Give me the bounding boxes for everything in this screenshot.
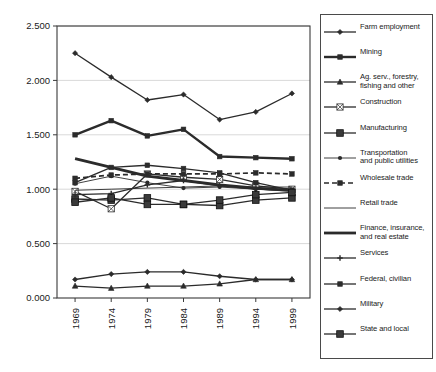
data-point-marker <box>73 180 78 185</box>
y-axis-tick-label: 2.500 <box>26 20 50 31</box>
x-axis-tick-label: 1974 <box>106 308 117 329</box>
legend-marker-icon <box>323 250 357 262</box>
data-point-marker <box>337 331 344 338</box>
data-point-marker <box>108 206 114 212</box>
legend-marker-icon <box>323 276 357 288</box>
x-axis-tick-label: 1999 <box>287 308 298 329</box>
legend-label: Construction <box>357 98 401 107</box>
data-point-marker <box>338 55 343 60</box>
y-axis-tick-label: 2.000 <box>26 75 50 86</box>
legend-item[interactable]: Federal, civilian <box>323 275 432 288</box>
data-point-marker <box>253 109 258 114</box>
legend-label: Wholesale trade <box>357 174 413 183</box>
data-point-marker <box>338 181 343 186</box>
y-axis-tick-label: 1.000 <box>26 184 50 195</box>
data-point-marker <box>72 277 77 282</box>
data-point-marker <box>181 269 186 274</box>
data-point-marker <box>181 166 186 171</box>
y-axis-tick-label: 0.000 <box>26 292 50 303</box>
legend-item[interactable]: Wholesale trade <box>323 174 432 187</box>
data-point-marker <box>338 281 343 286</box>
legend-marker-icon <box>323 301 357 313</box>
legend-item[interactable]: Farm employment <box>323 23 432 36</box>
data-point-marker <box>109 118 114 123</box>
legend-label: Military <box>357 300 383 309</box>
legend-marker-icon <box>323 125 357 137</box>
legend-label: Retail trade <box>357 199 398 208</box>
legend-marker-icon <box>323 49 357 61</box>
series-2 <box>73 118 294 161</box>
data-point-marker <box>181 127 186 132</box>
data-point-marker <box>337 306 342 311</box>
data-point-marker <box>109 173 114 178</box>
data-point-marker <box>109 271 114 276</box>
x-axis-tick-label: 1969 <box>70 308 81 329</box>
legend-label: Transportationand public utilities <box>357 149 418 166</box>
data-point-marker <box>144 195 151 202</box>
data-point-marker <box>216 197 223 204</box>
legend-item[interactable]: Military <box>323 300 432 313</box>
data-point-marker <box>180 201 187 208</box>
x-axis-tick-label: 1984 <box>178 308 189 329</box>
legend-marker-icon <box>323 326 357 338</box>
data-point-marker <box>289 91 294 96</box>
data-point-marker <box>337 104 343 110</box>
legend-item[interactable]: State and local <box>323 325 432 338</box>
x-axis-tick-label: 1979 <box>142 308 153 329</box>
data-point-marker <box>145 134 150 139</box>
data-point-marker <box>108 195 115 202</box>
series-13 <box>72 189 295 208</box>
data-point-marker <box>337 29 342 34</box>
legend-item[interactable]: Retail trade <box>323 199 432 212</box>
data-point-marker <box>338 156 342 160</box>
data-point-marker <box>72 199 79 206</box>
plot-svg: 0.0000.5001.0001.5002.0002.5001969197419… <box>0 0 316 372</box>
series-line <box>75 53 292 119</box>
data-point-marker <box>181 172 186 177</box>
legend-label: Farm employment <box>357 23 420 32</box>
y-axis-tick-label: 0.500 <box>26 238 50 249</box>
legend-item[interactable]: Construction <box>323 98 432 111</box>
y-axis-tick-label: 1.500 <box>26 129 50 140</box>
series-line <box>75 121 292 159</box>
legend-item[interactable]: Services <box>323 249 432 262</box>
data-point-marker <box>217 154 222 159</box>
data-point-marker <box>217 274 222 279</box>
data-point-marker <box>145 269 150 274</box>
chart-legend: Farm employmentMiningAg. serv., forestry… <box>320 14 433 359</box>
legend-label: Ag. serv., forestry,fishing and other <box>357 73 418 90</box>
data-point-marker <box>337 256 343 262</box>
legend-marker-icon <box>323 150 357 162</box>
data-point-marker <box>73 176 78 181</box>
series-12 <box>72 269 294 282</box>
data-point-marker <box>289 189 296 196</box>
legend-label: Finance, insurance,and real estate <box>357 224 424 241</box>
legend-marker-icon <box>323 74 357 86</box>
legend-marker-icon <box>323 200 357 212</box>
legend-label: Federal, civilian <box>357 275 411 284</box>
data-point-marker <box>253 171 258 176</box>
legend-label: Services <box>357 249 388 258</box>
data-point-marker <box>217 176 223 182</box>
data-point-marker <box>109 165 114 170</box>
legend-item[interactable]: Finance, insurance,and real estate <box>323 224 432 241</box>
line-chart: 0.0000.5001.0001.5002.0002.5001969197419… <box>0 0 316 372</box>
legend-item[interactable]: Manufacturing <box>323 124 432 137</box>
legend-label: Mining <box>357 48 382 57</box>
legend-item[interactable]: Mining <box>323 48 432 61</box>
chart-screenshot: 0.0000.5001.0001.5002.0002.5001969197419… <box>0 0 436 372</box>
legend-label: State and local <box>357 325 409 334</box>
data-point-marker <box>290 156 295 161</box>
legend-marker-icon <box>323 99 357 111</box>
data-point-marker <box>73 133 78 138</box>
data-point-marker <box>253 180 258 185</box>
legend-marker-icon <box>323 24 357 36</box>
legend-item[interactable]: Transportationand public utilities <box>323 149 432 166</box>
legend-marker-icon <box>323 175 357 187</box>
legend-item[interactable]: Ag. serv., forestry,fishing and other <box>323 73 432 90</box>
series-1 <box>72 51 294 123</box>
series-3 <box>72 277 294 291</box>
data-point-marker <box>290 172 295 177</box>
data-point-marker <box>253 155 258 160</box>
data-point-marker <box>252 191 259 198</box>
